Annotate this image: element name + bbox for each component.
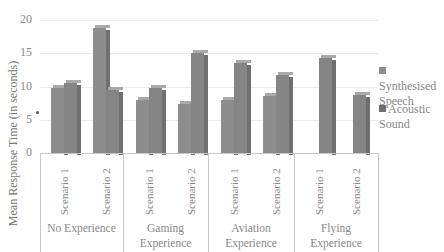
y-tick-label: 10 — [4, 79, 32, 94]
group-divider — [378, 153, 379, 252]
y-tick-label: 20 — [4, 12, 32, 27]
y-tick-label: 15 — [4, 45, 32, 60]
bar-synthesised-speech — [263, 96, 276, 153]
legend-item-acoustic-sound: AcousticSound — [379, 102, 431, 132]
bar-side — [247, 65, 251, 155]
y-tick-label: 5 — [4, 112, 32, 127]
group-label: AviationExperience — [208, 221, 294, 251]
legend-text: Sound — [379, 117, 410, 131]
group-label: GamingExperience — [123, 221, 208, 251]
bar-synthesised-speech — [51, 88, 64, 153]
bar-acoustic-sound — [106, 90, 119, 153]
legend-swatch — [379, 67, 386, 74]
legend-text: Synthesised — [379, 79, 436, 93]
group-label: FlyingExperience — [294, 221, 378, 251]
bar-synthesised-speech — [136, 100, 149, 153]
stray-dot — [36, 111, 39, 114]
scenario-1-label: Scenario 1 — [58, 168, 70, 215]
bar-synthesised-speech — [178, 104, 191, 153]
bar-side — [332, 60, 336, 155]
bar-side — [366, 97, 370, 155]
bar-acoustic-sound — [64, 83, 77, 153]
bar-top — [278, 72, 293, 75]
scenario-1-label: Scenario 1 — [313, 168, 325, 215]
bar-synthesised-speech — [93, 28, 106, 153]
bar-top — [151, 85, 166, 88]
x-axis-line — [40, 153, 378, 154]
bar-top — [321, 55, 336, 58]
bar-acoustic-sound — [149, 88, 162, 153]
bar-side — [204, 55, 208, 155]
bar-side — [162, 90, 166, 155]
bar-chart: Mean Response Time (in seconds) 05101520… — [0, 0, 444, 252]
scenario-2-label: Scenario 2 — [100, 168, 112, 215]
bar-top — [95, 25, 110, 28]
bar-top — [108, 87, 123, 90]
scenario-2-label: Scenario 2 — [350, 168, 362, 215]
group-label: No Experience — [40, 221, 123, 236]
bar-top — [193, 50, 208, 53]
scenario-2-label: Scenario 2 — [185, 168, 197, 215]
bar-synthesised-speech — [221, 100, 234, 153]
scenario-1-label: Scenario 1 — [228, 168, 240, 215]
y-axis-label: Mean Response Time (in seconds) — [6, 39, 21, 249]
y-tick-label: 0 — [4, 145, 32, 160]
legend-text: Acoustic — [388, 102, 431, 116]
legend-swatch — [379, 105, 386, 112]
bar-top — [66, 80, 81, 83]
bar-acoustic-sound — [191, 53, 204, 153]
bar-side — [289, 77, 293, 155]
bar-acoustic-sound — [319, 58, 332, 153]
bar-side — [77, 85, 81, 155]
gridline — [40, 20, 378, 21]
scenario-2-label: Scenario 2 — [270, 168, 282, 215]
bar-acoustic-sound — [353, 95, 366, 153]
bar-side — [119, 92, 123, 155]
group-divider — [40, 153, 41, 252]
bar-acoustic-sound — [234, 63, 247, 153]
scenario-1-label: Scenario 1 — [143, 168, 155, 215]
bar-top — [236, 60, 251, 63]
bar-acoustic-sound — [276, 75, 289, 153]
bar-top — [355, 92, 370, 95]
